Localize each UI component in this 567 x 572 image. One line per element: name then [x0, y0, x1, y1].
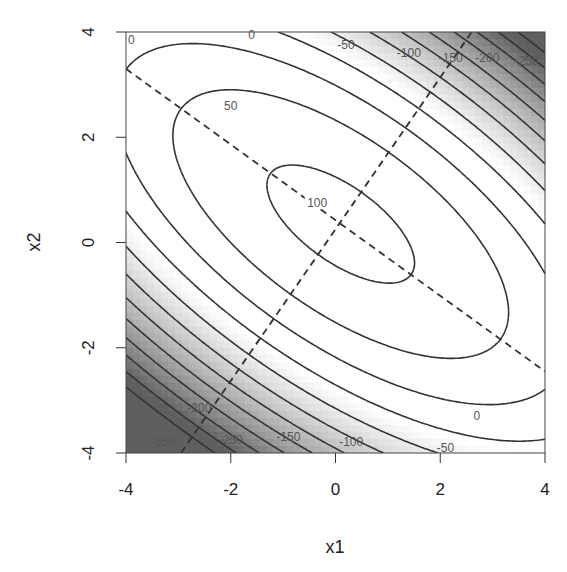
contour-label: 0 — [248, 28, 255, 42]
x-tick-label: 0 — [331, 480, 340, 499]
x-tick-label: -2 — [223, 480, 238, 499]
contour-label: -250 — [515, 54, 539, 68]
y-tick-label: 4 — [79, 27, 98, 36]
contour-label: -100 — [397, 46, 421, 60]
y-tick-label: 2 — [79, 133, 98, 142]
y-tick-label: 0 — [79, 238, 98, 247]
contour-label: -200 — [475, 51, 499, 65]
y-tick-label: -4 — [79, 445, 98, 460]
x-axis: -4-2024 — [118, 453, 549, 499]
y-axis: -4-2024 — [79, 27, 126, 460]
x-tick-label: -4 — [118, 480, 133, 499]
x-tick-label: 4 — [540, 480, 549, 499]
y-tick-label: -2 — [79, 340, 98, 355]
contour-label: -50 — [337, 38, 355, 52]
contour-label: -150 — [276, 430, 300, 444]
contour-chart: 10050000-50-100-150-200-250-50-100-150-2… — [0, 0, 567, 572]
contour-label: 0 — [474, 409, 481, 423]
contour-label: -250 — [219, 433, 243, 447]
contour-label: 50 — [224, 99, 238, 113]
contour-label: -150 — [439, 51, 463, 65]
shaded-surface — [126, 32, 546, 454]
x-tick-label: 2 — [436, 480, 445, 499]
contour-label: 100 — [307, 196, 327, 210]
contour-label: -350 — [151, 435, 175, 449]
x-axis-title: x1 — [325, 537, 344, 557]
contour-label: -100 — [339, 435, 363, 449]
contour-label: -200 — [187, 401, 211, 415]
y-axis-title: x2 — [24, 232, 44, 251]
contour-label: 0 — [128, 33, 135, 47]
